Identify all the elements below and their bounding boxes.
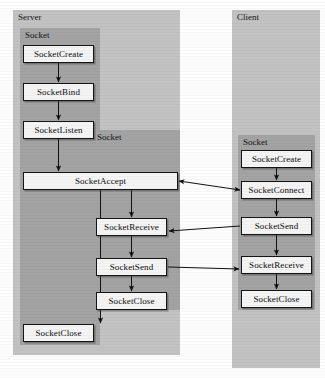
socket-flow-diagram: ServerSocketSocketClientSocket SocketCre…	[0, 0, 325, 378]
node-srv-close-1: SocketClose	[23, 324, 94, 342]
node-cli-connect: SocketConnect	[241, 181, 312, 199]
node-label-srv-create: SocketCreate	[34, 49, 83, 59]
node-label-srv-accept: SocketAccept	[75, 176, 126, 186]
arrow-a-accept-connect	[179, 181, 240, 190]
node-label-srv-bind: SocketBind	[37, 87, 80, 97]
panel-label-server-socket-2: Socket	[97, 132, 122, 143]
node-label-cli-connect: SocketConnect	[249, 185, 305, 195]
node-srv-create: SocketCreate	[23, 45, 94, 63]
node-srv-accept: SocketAccept	[23, 172, 178, 190]
panel-label-server: Server	[18, 12, 42, 23]
node-label-srv-close-2: SocketClose	[108, 296, 154, 306]
panel-label-client: Client	[237, 12, 259, 23]
node-cli-send: SocketSend	[241, 217, 312, 235]
node-srv-bind: SocketBind	[23, 83, 94, 101]
node-label-cli-close: SocketClose	[253, 294, 299, 304]
node-srv-receive: SocketReceive	[96, 218, 167, 236]
node-label-cli-send: SocketSend	[255, 221, 299, 231]
node-label-cli-create: SocketCreate	[252, 154, 301, 164]
node-label-srv-close-1: SocketClose	[35, 328, 81, 338]
node-srv-close-2: SocketClose	[96, 292, 167, 310]
panel-label-client-socket: Socket	[243, 137, 268, 148]
node-cli-create: SocketCreate	[241, 150, 312, 168]
node-label-srv-receive: SocketReceive	[104, 222, 159, 232]
node-label-srv-send: SocketSend	[110, 262, 154, 272]
node-label-cli-receive: SocketReceive	[249, 260, 304, 270]
node-cli-receive: SocketReceive	[241, 256, 312, 274]
node-srv-send: SocketSend	[96, 258, 167, 276]
node-label-srv-listen: SocketListen	[34, 125, 82, 135]
panel-label-server-socket-1: Socket	[25, 30, 50, 41]
node-srv-listen: SocketListen	[23, 121, 94, 139]
node-cli-close: SocketClose	[241, 290, 312, 308]
